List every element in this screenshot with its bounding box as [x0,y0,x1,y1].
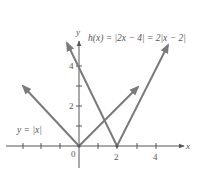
y-tick-label-2: 2 [69,101,74,111]
vertex-h [115,144,118,147]
vertex-origin [77,144,80,147]
series-h-x [67,43,168,146]
x-axis-label: x [185,141,190,151]
x-tick-label-4: 4 [153,152,158,162]
chart: x y 0 2 4 2 4 h(x) = |2x − 4| = 2|x − 2|… [0,0,206,178]
origin-label: 0 [71,149,76,159]
h-function-label: h(x) = |2x − 4| = 2|x − 2| [88,33,186,44]
y-axis-label: y [75,27,80,37]
y-tick-label-4: 4 [69,61,74,71]
abs-function-label: y = |x| [16,125,42,135]
x-tick-label-2: 2 [114,152,119,162]
